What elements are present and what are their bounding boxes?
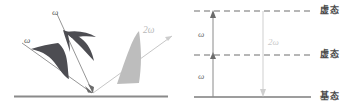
level-label-ground: 基态 [320,92,339,101]
transition-label-omega-upper: ω [198,30,204,39]
transition-label-two-omega: 2ω [268,38,279,47]
arrowhead-transition-two-omega [260,89,266,97]
beam-geometry-panel: ω ω 2ω [0,0,182,109]
pulse-envelope-two-omega [117,31,141,84]
energy-level-panel: ω ω 2ω 虚态 虚态 基态 [182,0,357,109]
transition-label-omega-lower: ω [198,72,204,81]
level-label-virtual-lower: 虚态 [320,50,339,59]
pulse-envelope-omega-upper-lobe [66,31,96,38]
figure-root: ω ω 2ω ω ω 2ω [0,0,357,109]
beam-label-omega-lower: ω [24,36,30,45]
beam-label-omega-upper: ω [52,8,58,17]
level-label-virtual-upper: 虚态 [320,6,339,15]
beam-label-two-omega: 2ω [143,26,154,36]
beam-geometry-svg [0,0,182,109]
pulse-envelope-omega-lower [31,43,69,79]
